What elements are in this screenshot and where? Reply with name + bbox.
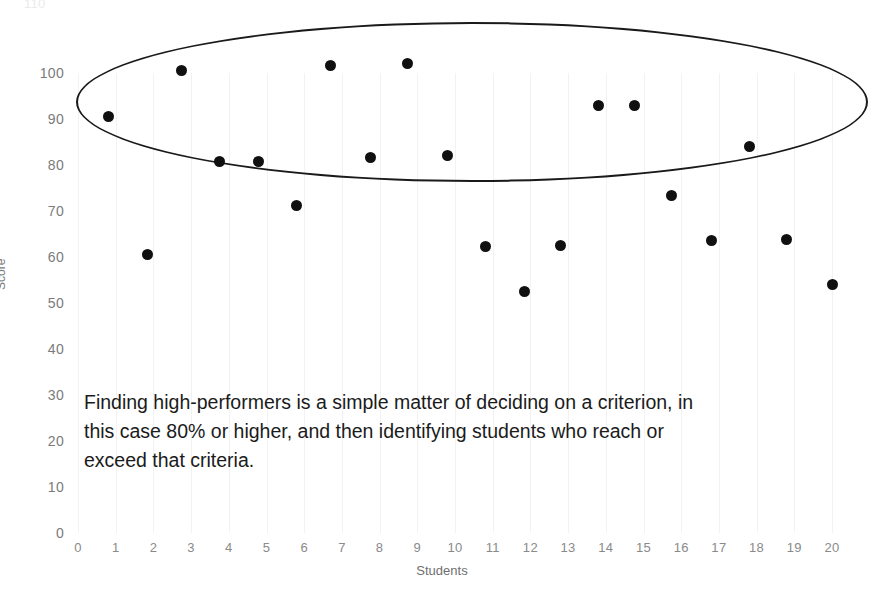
scatter-point [291, 200, 302, 211]
x-axis-tick-label: 0 [58, 540, 98, 555]
chart-page: 110 0102030405060708090100 Score 0123456… [0, 0, 884, 593]
scatter-point [629, 100, 640, 111]
scatter-point [176, 65, 187, 76]
plot-area [0, 0, 884, 593]
x-axis-tick-label: 5 [247, 540, 287, 555]
x-axis-tick-label: 17 [699, 540, 739, 555]
gridline [832, 73, 833, 533]
x-axis-tick-label: 6 [284, 540, 324, 555]
y-axis-tick-label: 0 [18, 525, 64, 541]
y-axis-title: Score [0, 259, 8, 290]
annotation-text: Finding high-performers is a simple matt… [84, 388, 804, 475]
scatter-point [706, 235, 717, 246]
x-axis-tick-label: 4 [209, 540, 249, 555]
y-axis-tick-label: 60 [18, 249, 64, 265]
y-axis-tick-label: 30 [18, 387, 64, 403]
x-axis-tick-label: 12 [510, 540, 550, 555]
x-axis-tick-label: 9 [397, 540, 437, 555]
x-axis-tick-label: 14 [586, 540, 626, 555]
y-axis-tick-label: 80 [18, 157, 64, 173]
scatter-point [744, 141, 755, 152]
scatter-point [666, 190, 677, 201]
annotation-line: this case 80% or higher, and then identi… [84, 417, 804, 446]
x-axis-tick-label: 19 [774, 540, 814, 555]
annotation-line: exceed that criteria. [84, 446, 804, 475]
x-axis-tick-label: 7 [322, 540, 362, 555]
y-axis-tick-label: 10 [18, 479, 64, 495]
y-axis-tick-label: 50 [18, 295, 64, 311]
scatter-point [593, 100, 604, 111]
scatter-point [827, 279, 838, 290]
scatter-point [214, 156, 225, 167]
y-axis-ticks: 0102030405060708090100 [18, 0, 64, 593]
x-axis-tick-label: 20 [812, 540, 852, 555]
x-axis-tick-label: 11 [473, 540, 513, 555]
x-axis-tick-label: 3 [171, 540, 211, 555]
y-axis-tick-label: 100 [18, 65, 64, 81]
x-axis-title: Students [0, 563, 884, 578]
gridline [78, 73, 79, 533]
scatter-point [103, 111, 114, 122]
y-axis-tick-label: 90 [18, 111, 64, 127]
x-axis-tick-label: 15 [624, 540, 664, 555]
scatter-point [781, 234, 792, 245]
scatter-point [142, 249, 153, 260]
x-axis-tick-label: 16 [661, 540, 701, 555]
y-axis-tick-label: 40 [18, 341, 64, 357]
y-axis-tick-label: 70 [18, 203, 64, 219]
high-performers-ellipse [76, 22, 868, 182]
x-axis-tick-label: 8 [360, 540, 400, 555]
scatter-point [365, 152, 376, 163]
annotation-line: Finding high-performers is a simple matt… [84, 388, 804, 417]
scatter-point [555, 240, 566, 251]
x-axis-tick-label: 1 [96, 540, 136, 555]
x-axis-tick-label: 18 [737, 540, 777, 555]
x-axis-tick-label: 10 [435, 540, 475, 555]
x-axis-tick-label: 13 [548, 540, 588, 555]
x-axis-tick-label: 2 [133, 540, 173, 555]
y-axis-tick-label: 20 [18, 433, 64, 449]
scatter-point [519, 286, 530, 297]
scatter-point [480, 241, 491, 252]
